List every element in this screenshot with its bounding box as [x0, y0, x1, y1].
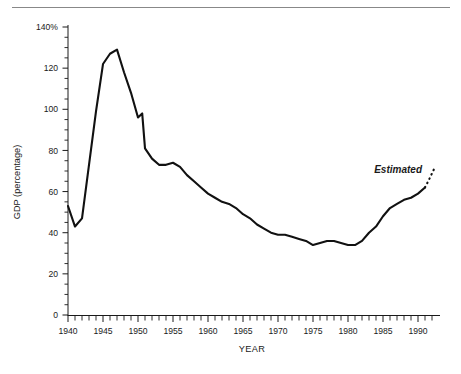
y-axis-tick-labels: 140%120100806040200: [36, 22, 58, 320]
y-tick-label: 40: [48, 228, 58, 238]
x-tick-label: 1975: [303, 326, 322, 336]
y-tick-label: 60: [48, 187, 58, 197]
x-tick-label: 1955: [163, 326, 182, 336]
x-tick-label: 1970: [268, 326, 287, 336]
x-tick-label: 1960: [198, 326, 217, 336]
x-tick-label: 1940: [58, 326, 77, 336]
x-tick-label: 1965: [233, 326, 252, 336]
data-series-group: [68, 50, 434, 245]
gdp-line-solid: [68, 50, 425, 245]
x-tick-label: 1945: [93, 326, 112, 336]
y-tick-label: 120: [44, 63, 59, 73]
x-tick-label: 1990: [408, 326, 427, 336]
y-tick-label: 100: [44, 104, 59, 114]
x-axis-tick-labels: 1940194519501955196019651970197519801985…: [58, 326, 427, 336]
y-tick-label: 140%: [36, 22, 58, 32]
gdp-line-estimated-dotted: [425, 169, 434, 188]
chart-canvas: 140%120100806040200 19401945195019551960…: [0, 0, 461, 374]
x-tick-label: 1985: [373, 326, 392, 336]
x-tick-label: 1980: [338, 326, 357, 336]
x-axis-major-ticks: [68, 315, 418, 322]
x-tick-label: 1950: [128, 326, 147, 336]
estimated-annotation-label: Estimated: [374, 164, 423, 175]
y-tick-label: 80: [48, 146, 58, 156]
x-axis-title: YEAR: [239, 344, 266, 354]
y-tick-label: 0: [53, 310, 58, 320]
y-axis: 140%120100806040200: [36, 22, 68, 320]
y-tick-label: 20: [48, 269, 58, 279]
gdp-percentage-chart: 140%120100806040200 19401945195019551960…: [0, 0, 461, 374]
y-axis-title: GDP (percentage): [12, 145, 22, 219]
x-axis: 1940194519501955196019651970197519801985…: [58, 315, 440, 336]
y-axis-minor-ticks: [65, 37, 69, 304]
